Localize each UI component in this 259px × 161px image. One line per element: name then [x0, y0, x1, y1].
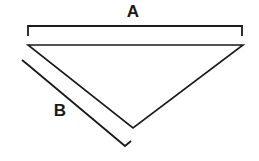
dimension-bracket-b — [22, 60, 131, 146]
dimension-bracket-a — [28, 26, 242, 36]
dimension-label-a: A — [127, 2, 139, 21]
geometry-figure: A B — [0, 0, 259, 161]
dimension-label-b: B — [54, 101, 66, 120]
diagram-canvas: A B — [0, 0, 259, 161]
